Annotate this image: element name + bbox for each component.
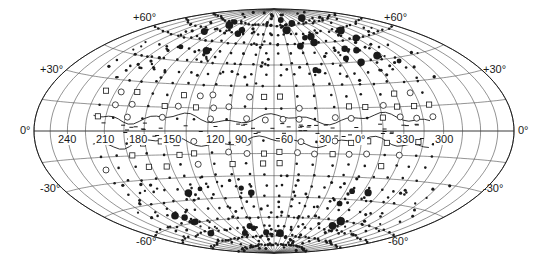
small-dot-marker	[330, 181, 333, 184]
small-dot-marker	[278, 84, 281, 87]
small-dot-marker	[280, 74, 283, 77]
small-dot-marker	[154, 211, 156, 213]
small-dot-marker	[166, 208, 169, 211]
small-dot-marker	[187, 236, 190, 239]
small-dot-marker	[219, 30, 222, 33]
small-dot-marker	[179, 163, 182, 166]
small-dot-marker	[313, 95, 316, 98]
small-dot-marker	[248, 183, 251, 186]
open-square-marker	[330, 152, 335, 157]
large-dot-marker	[239, 185, 244, 190]
small-dot-marker	[237, 73, 240, 76]
small-dot-marker	[336, 225, 339, 228]
small-dot-marker	[325, 241, 328, 244]
small-dot-marker	[152, 92, 155, 95]
small-dot-marker	[301, 242, 304, 245]
open-square-marker	[363, 104, 368, 109]
open-square-marker	[164, 164, 169, 169]
small-dot-marker	[243, 75, 246, 78]
small-dot-marker	[113, 182, 116, 185]
small-dot-marker	[263, 11, 266, 14]
small-dot-marker	[313, 29, 315, 31]
lon-label: 30	[318, 134, 332, 145]
small-dot-marker	[308, 19, 311, 22]
open-circle-marker	[295, 150, 301, 156]
small-dot-marker	[215, 83, 218, 86]
small-dot-marker	[290, 52, 293, 55]
small-dot-marker	[314, 74, 317, 77]
small-dot-marker	[290, 228, 293, 231]
small-dot-marker	[241, 248, 243, 250]
small-dot-marker	[185, 228, 188, 231]
small-dot-marker	[140, 45, 142, 47]
small-dot-marker	[137, 63, 140, 66]
small-dot-marker	[333, 198, 336, 201]
small-dot-marker	[277, 225, 280, 228]
small-dot-marker	[330, 229, 333, 232]
small-dot-marker	[403, 193, 406, 196]
small-dot-marker	[294, 43, 297, 46]
small-dot-marker	[342, 39, 345, 42]
small-dot-marker	[344, 226, 346, 228]
small-dot-marker	[380, 58, 383, 61]
small-dot-marker	[165, 48, 168, 51]
small-dot-marker	[265, 108, 268, 111]
large-dot-marker	[198, 186, 203, 191]
small-dot-marker	[313, 51, 316, 54]
small-dot-marker	[222, 71, 225, 74]
small-dot-marker	[284, 236, 287, 239]
small-dot-marker	[378, 46, 381, 49]
small-dot-marker	[207, 207, 210, 210]
small-dot-marker	[305, 21, 308, 24]
small-dot-marker	[352, 222, 355, 225]
small-dot-marker	[255, 245, 258, 248]
small-dot-marker	[213, 244, 216, 247]
small-dot-marker	[404, 189, 407, 192]
small-dot-marker	[216, 218, 219, 221]
small-dot-marker	[227, 205, 229, 207]
small-dot-marker	[240, 243, 242, 245]
small-dot-marker	[378, 230, 380, 232]
small-dot-marker	[259, 235, 262, 238]
small-dot-marker	[295, 249, 298, 252]
small-dot-marker	[267, 58, 270, 61]
small-dot-marker	[193, 199, 196, 202]
small-dot-marker	[265, 73, 268, 76]
small-dot-marker	[243, 41, 246, 44]
small-dot-marker	[116, 59, 119, 62]
small-dot-marker	[176, 188, 179, 191]
small-dot-marker	[225, 229, 228, 232]
small-dot-marker	[367, 71, 370, 74]
small-dot-marker	[260, 243, 263, 246]
small-dot-marker	[270, 233, 273, 236]
open-square-marker	[392, 91, 397, 96]
small-dot-marker	[336, 229, 339, 232]
large-dot-marker	[313, 67, 319, 73]
small-dot-marker	[297, 179, 300, 182]
small-dot-marker	[318, 16, 321, 19]
open-square-marker	[193, 105, 198, 110]
small-dot-marker	[405, 66, 408, 69]
small-dot-marker	[320, 63, 323, 66]
small-dot-marker	[333, 46, 336, 49]
small-dot-marker	[304, 226, 307, 229]
small-dot-marker	[176, 226, 179, 229]
open-circle-marker	[332, 138, 338, 144]
small-dot-marker	[379, 93, 382, 96]
small-dot-marker	[262, 139, 265, 142]
small-dot-marker	[230, 85, 233, 88]
large-dot-marker	[357, 59, 364, 66]
lon-label: 180	[128, 134, 148, 145]
small-dot-marker	[313, 174, 316, 177]
small-dot-marker	[297, 225, 300, 228]
small-dot-marker	[237, 178, 240, 181]
open-circle-marker	[397, 114, 403, 120]
small-dot-marker	[331, 164, 334, 167]
small-dot-marker	[295, 184, 298, 187]
small-dot-marker	[364, 46, 367, 49]
small-dot-marker	[151, 55, 154, 58]
large-dot-marker	[329, 222, 337, 230]
small-dot-marker	[174, 230, 177, 233]
small-dot-marker	[379, 215, 382, 218]
small-dot-marker	[193, 118, 196, 121]
